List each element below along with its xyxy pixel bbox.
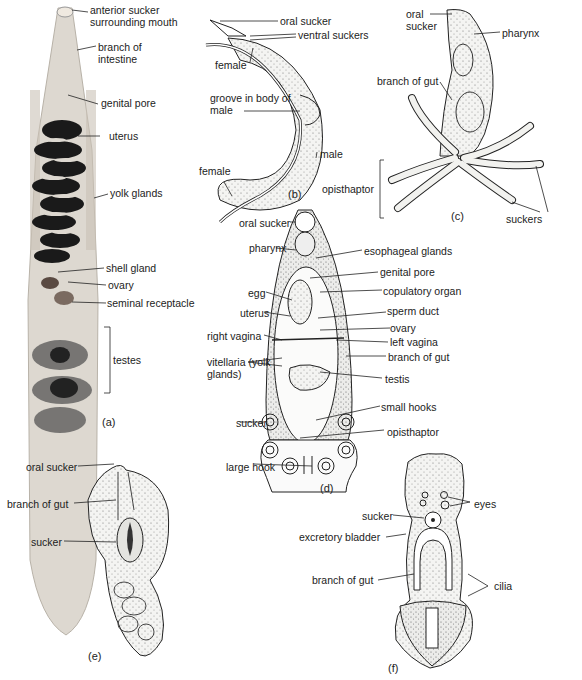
label-b-female-bottom: female [199,165,231,177]
label-b-oral-sucker: oral sucker [280,15,331,27]
label-f-eyes: eyes [474,498,496,510]
label-f-branch-gut: branch of gut [312,574,373,586]
label-e-sucker: sucker [31,536,62,548]
caption-b: (b) [288,188,301,200]
panel-b-specimen [206,20,323,222]
label-d-ovary: ovary [390,322,416,334]
label-c-oral-sucker: oral sucker [406,8,436,32]
label-b-ventral-suckers: ventral suckers [298,29,369,41]
label-a-genital-pore: genital pore [101,97,156,109]
panel-c-specimen [392,10,540,209]
label-d-large-hook: large hook [226,461,275,473]
label-a-yolk-glands: yolk glands [110,187,163,199]
label-d-uterus: uterus [240,307,269,319]
label-a-anterior-sucker: anterior sucker surrounding mouth [90,4,190,28]
label-b-groove: groove in body of male [210,92,292,116]
label-a-testes: testes [113,354,141,366]
label-a-ovary: ovary [108,279,134,291]
caption-e: (e) [88,650,101,662]
label-d-sucker: sucker [236,417,267,429]
label-d-esophageal-glands: esophageal glands [364,245,452,257]
panel-f-specimen [395,454,472,668]
label-a-seminal-receptacle: seminal receptacle [107,297,195,309]
label-f-sucker: sucker [362,510,393,522]
label-d-small-hooks: small hooks [381,401,436,413]
label-d-testis: testis [385,373,410,385]
caption-f: (f) [388,662,398,674]
label-d-left-vagina: left vagina [390,336,438,348]
label-b-male: male [320,148,343,160]
label-d-egg: egg [248,287,266,299]
label-f-excretory-bladder: excretory bladder [299,531,380,543]
label-d-sperm-duct: sperm duct [387,305,439,317]
label-c-suckers: suckers [506,213,542,225]
caption-d: (d) [320,482,333,494]
label-d-vitellaria: vitellaria (yolk glands) [207,356,287,380]
label-d-oral-sucker: oral sucker [239,217,290,229]
label-c-branch-gut: branch of gut [377,75,438,87]
label-c-pharynx: pharynx [502,27,539,39]
label-d-pharynx: pharynx [249,242,286,254]
label-d-opisthaptor: opisthaptor [387,426,439,438]
caption-c: (c) [451,210,464,222]
panel-e-specimen [88,465,169,656]
label-b-female-top: female [215,59,247,71]
label-a-shell-gland: shell gland [106,262,156,274]
label-d-branch-gut: branch of gut [388,351,449,363]
label-d-right-vagina: right vagina [207,330,261,342]
label-d-genital-pore: genital pore [380,266,435,278]
label-c-opisthaptor: opisthaptor [322,183,374,195]
label-e-oral-sucker: oral sucker [26,461,77,473]
label-e-branch-gut: branch of gut [7,498,68,510]
label-a-branch-intestine: branch of intestine [98,41,168,65]
label-a-uterus: uterus [109,130,138,142]
label-f-cilia: cilia [494,580,512,592]
label-d-copulatory-organ: copulatory organ [383,285,461,297]
caption-a: (a) [102,416,115,428]
